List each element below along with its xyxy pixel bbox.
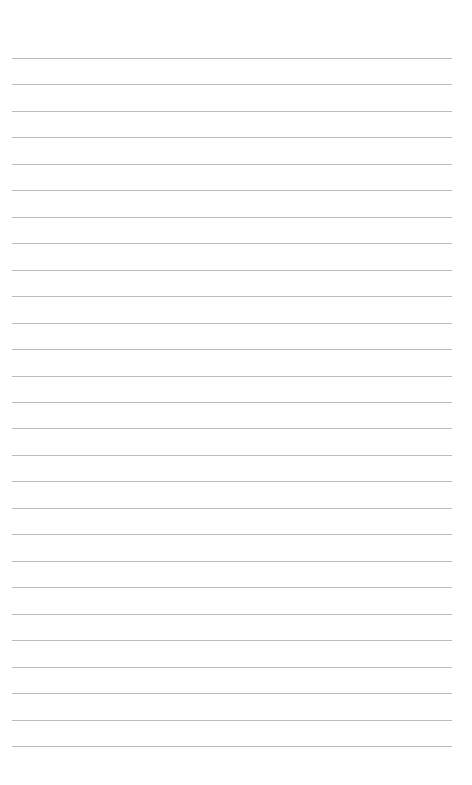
ruled-line — [12, 667, 452, 668]
ruled-line — [12, 137, 452, 138]
ruled-line — [12, 164, 452, 165]
ruled-line — [12, 190, 452, 191]
ruled-line — [12, 349, 452, 350]
ruled-line — [12, 508, 452, 509]
ruled-line — [12, 455, 452, 456]
ruled-line — [12, 58, 452, 59]
ruled-line — [12, 217, 452, 218]
ruled-line — [12, 587, 452, 588]
ruled-line — [12, 402, 452, 403]
ruled-line — [12, 640, 452, 641]
ruled-line — [12, 561, 452, 562]
ruled-line — [12, 720, 452, 721]
ruled-line — [12, 428, 452, 429]
ruled-line — [12, 376, 452, 377]
lined-paper-page — [0, 0, 472, 785]
ruled-line — [12, 746, 452, 747]
ruled-line — [12, 323, 452, 324]
ruled-line — [12, 270, 452, 271]
ruled-line — [12, 534, 452, 535]
ruled-line — [12, 614, 452, 615]
ruled-line — [12, 84, 452, 85]
ruled-line — [12, 693, 452, 694]
ruled-line — [12, 481, 452, 482]
ruled-line — [12, 296, 452, 297]
ruled-line — [12, 111, 452, 112]
ruled-line — [12, 243, 452, 244]
